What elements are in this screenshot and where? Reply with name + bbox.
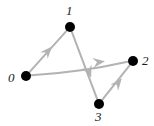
graph-node-3[interactable] [94,99,104,109]
edge-0-to-2 [31,58,127,75]
edge-0-to-1 [30,31,67,72]
node-label-1: 1 [66,4,73,17]
graph-canvas [0,0,154,126]
node-label-0: 0 [8,71,15,84]
directed-graph-figure: 0 1 2 3 [0,0,154,126]
node-label-2: 2 [142,54,149,67]
edge-line-0-2 [31,62,127,75]
graph-node-2[interactable] [128,56,138,66]
edge-layer [30,31,130,100]
node-label-3: 3 [95,110,102,123]
graph-node-1[interactable] [65,22,75,32]
node-layer [21,22,138,109]
arrowhead-1-3 [82,65,91,78]
graph-node-0[interactable] [21,71,31,81]
edge-line-1-3 [72,32,97,99]
edge-3-to-2 [102,65,129,99]
edge-1-to-3 [72,32,97,99]
